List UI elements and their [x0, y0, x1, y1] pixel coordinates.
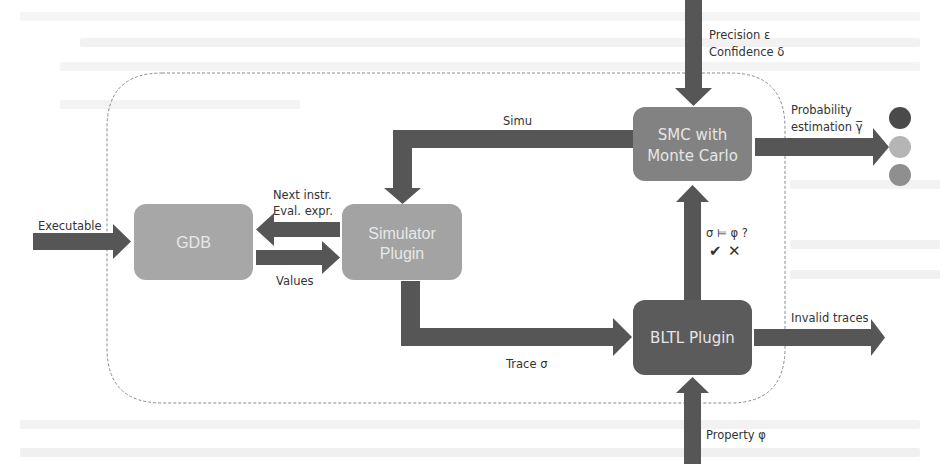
values-label: Values — [276, 274, 314, 288]
smc-label-line2: Monte Carlo — [647, 147, 738, 165]
simu-label: Simu — [503, 114, 532, 128]
confidence-label: Confidence δ — [709, 45, 784, 59]
probability-label-line1: Probability — [791, 103, 852, 117]
property-arrow — [676, 377, 709, 464]
smc-box — [633, 107, 752, 181]
trace-arrow — [401, 281, 632, 356]
simulator-plugin-box — [342, 204, 462, 280]
values-arrow — [256, 241, 340, 274]
next-instr-label-line1: Next instr. — [273, 188, 332, 202]
result-dot-dark — [889, 107, 911, 129]
smc-label-line1: SMC with — [658, 126, 728, 144]
result-dot-light — [889, 136, 911, 158]
gdb-label: GDB — [176, 234, 211, 251]
invalid-traces-label: Invalid traces — [791, 311, 869, 325]
check-label: σ ⊨ φ ? — [706, 226, 748, 240]
simulator-label-line1: Simulator — [368, 225, 436, 242]
bltl-label: BLTL Plugin — [650, 329, 735, 347]
precision-label: Precision ε — [709, 28, 770, 42]
check-yes-icon: ✔ — [709, 242, 722, 260]
trace-label: Trace σ — [505, 357, 547, 371]
executable-label: Executable — [38, 219, 102, 233]
check-no-icon: ✕ — [728, 242, 741, 260]
probability-label-line2: estimation γ̅ — [791, 120, 863, 134]
result-dot-mid — [889, 164, 911, 186]
simulator-label-line2: Plugin — [380, 245, 424, 262]
property-label: Property φ — [706, 428, 766, 442]
architecture-diagram: GDB Simulator Plugin SMC with Monte Carl… — [0, 0, 944, 472]
simu-arrow — [384, 130, 633, 204]
check-arrow — [676, 185, 709, 300]
next-instr-label-line2: Eval. expr. — [273, 204, 333, 218]
precision-arrow — [675, 0, 712, 106]
